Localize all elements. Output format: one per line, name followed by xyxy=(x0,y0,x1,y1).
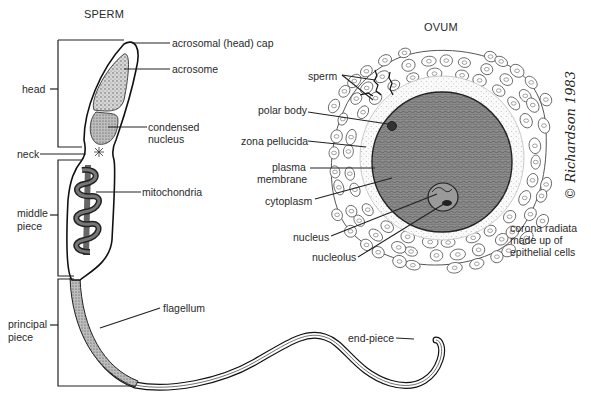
label-cytoplasm: cytoplasm xyxy=(265,195,313,207)
sperm-title: SPERM xyxy=(84,8,124,20)
label-neck: neck xyxy=(17,148,40,160)
label-principal-piece-1: principal xyxy=(8,318,47,330)
corona-cell xyxy=(440,55,453,67)
polar-body xyxy=(388,122,397,131)
ovum-title: OVUM xyxy=(424,21,458,33)
label-corona-radiata-1: corona radiata xyxy=(510,222,577,234)
label-middle-piece-2: piece xyxy=(17,220,42,232)
label-end-piece: end-piece xyxy=(348,332,394,344)
label-condensed-nucleus-1: condensed xyxy=(148,121,200,133)
label-mitochondria: mitochondria xyxy=(142,186,202,198)
centriole xyxy=(94,147,104,157)
ovum-figure: OVUM sperm polar body zona pelluc xyxy=(241,21,577,274)
label-corona-radiata-3: epithelial cells xyxy=(510,246,575,258)
label-flagellum: flagellum xyxy=(163,302,205,314)
corona-cell xyxy=(531,155,541,170)
label-acrosome: acrosome xyxy=(172,63,218,75)
corona-cell xyxy=(430,249,443,261)
label-sperm: sperm xyxy=(308,70,337,82)
label-head: head xyxy=(22,83,46,95)
label-middle-piece-1: middle xyxy=(17,207,48,219)
gamete-diagram: SPERM xyxy=(0,0,591,403)
artist-signature: © Richardson 1983 xyxy=(563,71,578,200)
label-nucleus: nucleus xyxy=(293,231,329,243)
label-principal-piece-2: piece xyxy=(8,331,33,343)
corona-cell xyxy=(329,147,340,160)
label-nucleolus: nucleolus xyxy=(312,251,356,263)
nucleus xyxy=(428,183,458,211)
label-zona-pellucida: zona pellucida xyxy=(241,135,308,147)
label-plasma-membrane-1: plasma xyxy=(272,161,306,173)
label-polar-body: polar body xyxy=(258,104,308,116)
bracket-principal-piece xyxy=(58,279,135,386)
nucleolus xyxy=(442,200,452,206)
label-acrosomal-cap: acrosomal (head) cap xyxy=(172,37,274,49)
label-plasma-membrane-2: membrane xyxy=(257,173,307,185)
label-condensed-nucleus-2: nucleus xyxy=(148,133,184,145)
label-corona-radiata-2: made up of xyxy=(510,234,563,246)
corona-cell xyxy=(326,97,342,115)
